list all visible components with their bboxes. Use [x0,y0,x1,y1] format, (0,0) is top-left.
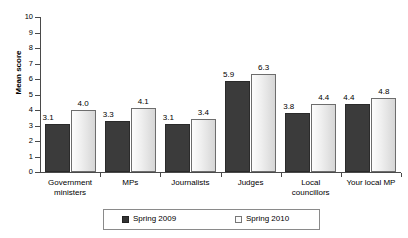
bar [311,104,336,172]
x-axis-category-label: Localcouncillors [281,178,341,197]
bar-value-label: 3.8 [271,103,306,111]
bar [105,121,130,172]
bar [371,98,396,172]
bar-value-label: 5.9 [211,71,246,79]
plot-area: 3.14.03.34.13.13.45.96.33.84.44.44.8 [40,17,401,172]
y-axis-tick-label: 8 [19,44,33,52]
x-axis-category-label: Journalists [160,178,220,188]
y-axis-tick-label: 1 [19,153,33,161]
legend-label: Spring 2009 [133,215,176,223]
bar-group: 3.13.4 [160,17,220,172]
bar [45,124,70,172]
bar-value-label: 4.1 [126,98,161,106]
x-axis-tick [160,173,161,177]
bar-group: 3.14.0 [40,17,100,172]
y-axis-tick-label: 9 [19,29,33,37]
x-axis-tick [281,173,282,177]
bar [165,124,190,172]
bar [345,104,370,172]
y-axis-tick-label: 0 [19,168,33,176]
bar-value-label: 4.4 [331,94,366,102]
x-axis-tick [401,173,402,177]
y-axis-title: Mean score [14,28,23,118]
bar-value-label: 4.8 [366,88,401,96]
legend-label: Spring 2010 [246,215,289,223]
bar-group: 3.34.1 [100,17,160,172]
bar-group: 4.44.8 [341,17,401,172]
bar [191,119,216,172]
x-axis-tick [341,173,342,177]
y-axis-tick-label: 4 [19,106,33,114]
bar [225,81,250,172]
bar-value-label: 3.3 [91,111,126,119]
y-axis-tick-label: 10 [19,13,33,21]
x-axis-category-label: Your local MP [341,178,401,188]
x-axis-tick [221,173,222,177]
bar-value-label: 3.4 [186,109,221,117]
x-axis-category-label: Judges [221,178,281,188]
bar-value-label: 3.1 [151,114,186,122]
dark-square-icon [122,216,129,223]
x-axis-tick [100,173,101,177]
chart-legend: Spring 2009 Spring 2010 [103,209,320,230]
y-axis-tick [35,172,40,173]
y-axis-tick-label: 3 [19,122,33,130]
y-axis-tick-label: 5 [19,91,33,99]
bar-chart: Mean score 109876543210 3.14.03.34.13.13… [0,0,408,238]
bar [285,113,310,172]
bar [251,74,276,172]
bar-value-label: 4.0 [66,100,101,108]
bar [71,110,96,172]
x-axis-category-label: MPs [100,178,160,188]
y-axis-tick-label: 2 [19,137,33,145]
legend-item-spring-2009: Spring 2009 [122,215,176,223]
y-axis-tick-label: 6 [19,75,33,83]
legend-item-spring-2010: Spring 2010 [235,215,289,223]
bar-group: 5.96.3 [221,17,281,172]
y-axis-tick-label: 7 [19,60,33,68]
bar-value-label: 3.1 [31,114,66,122]
x-axis-category-label: Governmentministers [40,178,100,197]
bar-value-label: 6.3 [246,64,281,72]
light-square-icon [235,216,242,223]
